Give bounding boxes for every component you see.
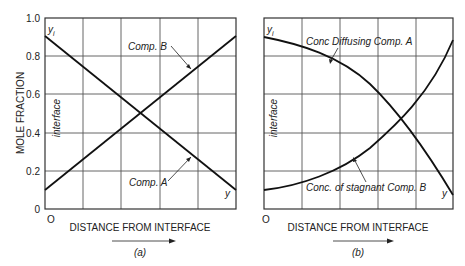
figure: 1.0 0.8 0.6 0.4 0.2 0 O MOLE FRACTION in… xyxy=(0,0,465,266)
caption-b: (b) xyxy=(352,247,364,258)
caption-a: (a) xyxy=(134,247,146,258)
x-axis-label-a: DISTANCE FROM INTERFACE xyxy=(70,222,211,233)
y-axis-label: MOLE FRACTION xyxy=(15,72,26,154)
ytick-1.0: 1.0 xyxy=(26,13,40,24)
interface-label-b: interface xyxy=(268,98,279,137)
comp-a-arrowhead-b xyxy=(329,59,333,64)
x-axis-label-b: DISTANCE FROM INTERFACE xyxy=(288,222,429,233)
comp-b-label: Comp. B xyxy=(128,41,167,52)
yi-label-a: yi xyxy=(47,24,55,37)
x-arrowhead-b xyxy=(387,239,394,244)
comp-a-arrow xyxy=(168,157,191,181)
x-origin-label-a: O xyxy=(47,214,55,225)
comp-b-arrowhead xyxy=(186,64,191,69)
ytick-0.4: 0.4 xyxy=(26,128,40,139)
x-origin-label-b: O xyxy=(262,214,270,225)
comp-b-arrow-b xyxy=(354,159,366,182)
stagnant-comp-b-label: Conc. of stagnant Comp. B xyxy=(306,182,426,193)
interface-label-a: interface xyxy=(51,98,62,137)
y-end-label-b: y xyxy=(441,188,448,199)
yi-label-b: yi xyxy=(266,24,274,37)
y-end-label-a: y xyxy=(224,188,231,199)
diffusing-comp-a-label: Conc Diffusing Comp. A xyxy=(306,36,413,47)
ytick-0.2: 0.2 xyxy=(26,166,40,177)
panel-b: O interface yi y Conc Diffusing Comp. A … xyxy=(262,18,453,258)
x-arrowhead-a xyxy=(169,239,176,244)
comp-a-label: Comp. A xyxy=(129,177,168,188)
panel-a: 1.0 0.8 0.6 0.4 0.2 0 O MOLE FRACTION in… xyxy=(15,13,236,258)
ytick-0.8: 0.8 xyxy=(26,51,40,62)
ytick-0: 0 xyxy=(34,204,40,215)
ytick-0.6: 0.6 xyxy=(26,89,40,100)
